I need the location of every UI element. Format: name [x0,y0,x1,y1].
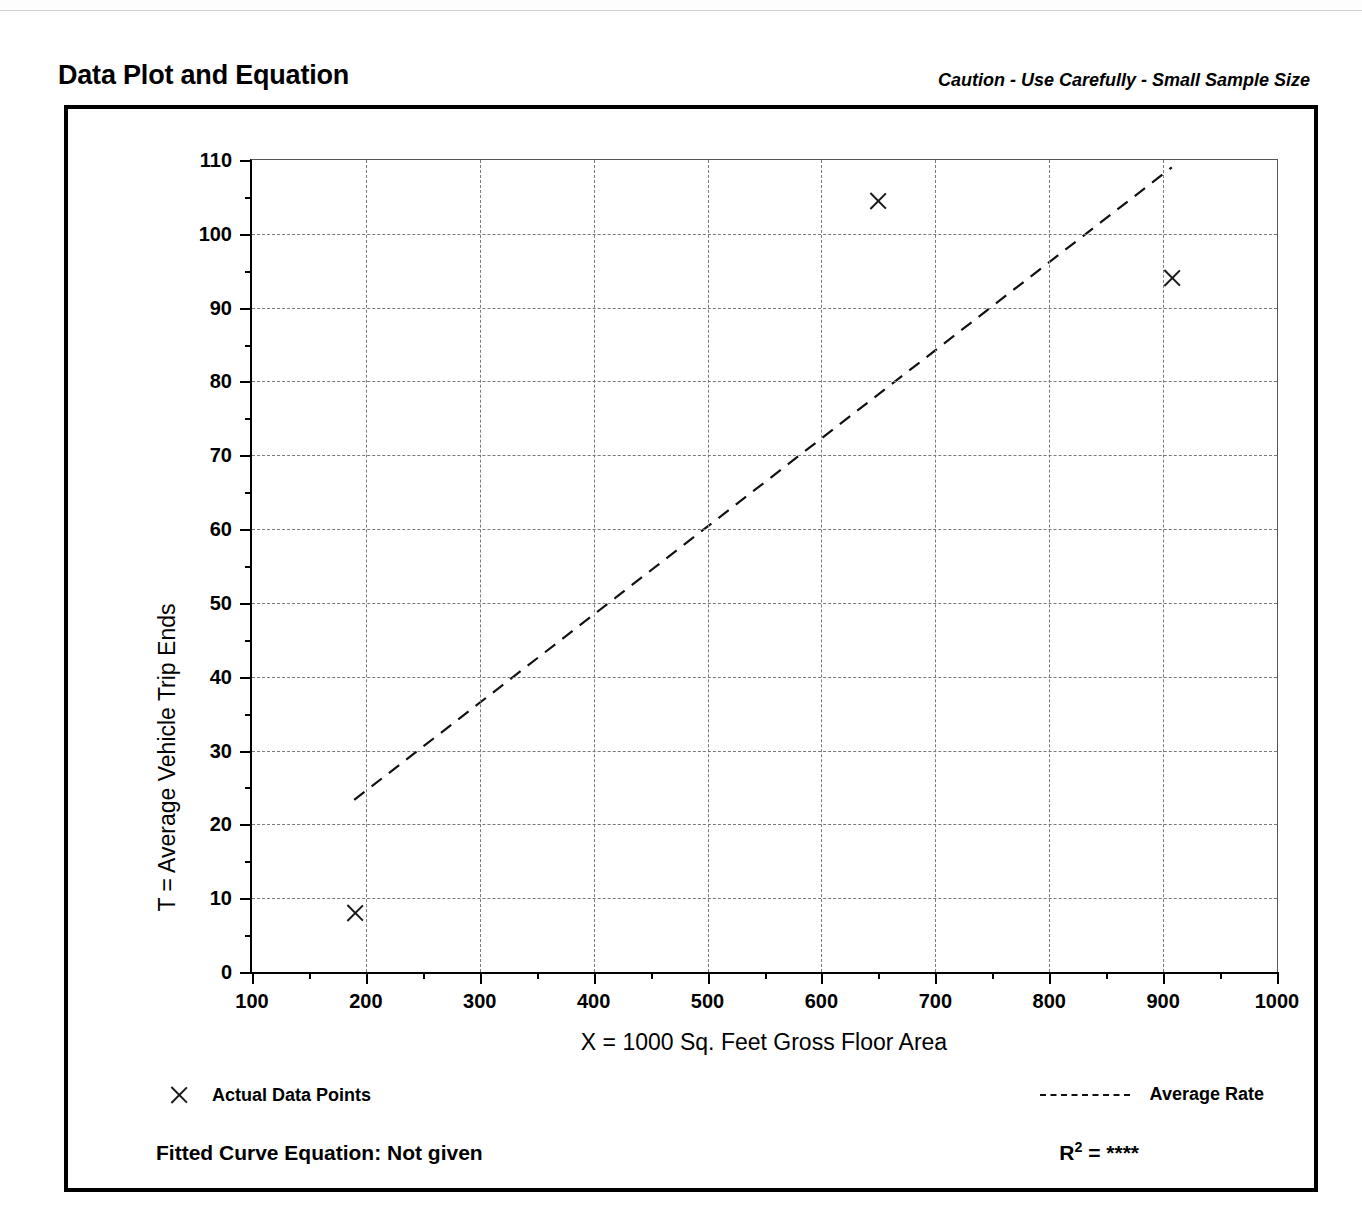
caution-note: Caution - Use Carefully - Small Sample S… [938,70,1310,91]
y-axis-tick [240,824,252,826]
r-squared-value: R2 = **** [1059,1139,1139,1165]
x-axis-tick-label: 400 [577,990,610,1013]
x-axis-tick-label: 900 [1146,990,1179,1013]
x-axis-minor-tick [537,972,539,979]
gridline-horizontal [252,603,1277,604]
plot-area: 0102030405060708090100110100200300400500… [250,159,1278,974]
page-title: Data Plot and Equation [58,60,349,91]
y-axis-tick-label: 100 [199,222,232,245]
y-axis-tick [240,603,252,605]
x-axis-minor-tick [992,972,994,979]
y-axis-minor-tick [245,861,252,863]
legend-points-label: Actual Data Points [212,1085,371,1106]
y-axis-minor-tick [245,271,252,273]
gridline-horizontal [252,308,1277,309]
y-axis-tick [240,160,252,162]
gridline-vertical [935,160,936,972]
y-axis-tick-label: 110 [200,149,232,172]
y-axis-tick-label: 20 [210,813,232,836]
gridline-horizontal [252,529,1277,530]
y-axis-minor-tick [245,492,252,494]
y-axis-tick-label: 40 [210,665,232,688]
y-axis-minor-tick [245,640,252,642]
gridline-horizontal [252,381,1277,382]
gridline-horizontal [252,234,1277,235]
x-axis-tick-label: 300 [463,990,496,1013]
x-axis-tick-label: 200 [349,990,382,1013]
page-top-rule [0,0,1362,11]
gridline-horizontal [252,677,1277,678]
equation-row: Fitted Curve Equation: Not given R2 = **… [156,1139,1264,1165]
gridline-vertical [480,160,481,972]
gridline-vertical [821,160,822,972]
x-axis-tick [594,972,596,984]
y-axis-tick [240,308,252,310]
y-axis-tick-label: 10 [210,887,232,910]
legend-average-rate: Average Rate [1040,1084,1264,1105]
x-axis-tick-label: 600 [805,990,838,1013]
trend-line-svg [252,160,1277,972]
x-axis-tick [1049,972,1051,984]
x-axis-tick-label: 500 [691,990,724,1013]
x-axis-minor-tick [1220,972,1222,979]
gridline-horizontal [252,751,1277,752]
y-axis-tick [240,677,252,679]
x-axis-minor-tick [423,972,425,979]
gridline-horizontal [252,898,1277,899]
x-axis-tick [366,972,368,984]
gridline-vertical [1049,160,1050,972]
chart-frame: T = Average Vehicle Trip Ends 0102030405… [64,105,1318,1192]
y-axis-tick-label: 0 [221,961,232,984]
x-axis-tick-label: 1000 [1255,990,1300,1013]
y-axis-minor-tick [245,566,252,568]
x-axis-tick-label: 800 [1033,990,1066,1013]
x-axis-minor-tick [651,972,653,979]
x-axis-tick [821,972,823,984]
y-axis-tick-label: 60 [210,518,232,541]
x-axis-minor-tick [1106,972,1108,979]
average-rate-trend-line [354,167,1172,799]
dashed-line-icon [1040,1094,1130,1096]
y-axis-tick-label: 50 [210,591,232,614]
x-axis-minor-tick [878,972,880,979]
gridline-horizontal [252,824,1277,825]
x-axis-tick [708,972,710,984]
legend-rate-label: Average Rate [1150,1084,1264,1105]
gridline-vertical [708,160,709,972]
y-axis-minor-tick [245,197,252,199]
y-axis-tick [240,898,252,900]
x-axis-title: X = 1000 Sq. Feet Gross Floor Area [250,1029,1278,1056]
y-axis-tick [240,455,252,457]
y-axis-minor-tick [245,345,252,347]
x-axis-tick [935,972,937,984]
y-axis-tick [240,529,252,531]
x-axis-tick [1163,972,1165,984]
data-point-marker [867,190,889,212]
x-axis-minor-tick [765,972,767,979]
y-axis-tick-label: 70 [210,444,232,467]
y-axis-tick [240,751,252,753]
gridline-vertical [366,160,367,972]
y-axis-tick [240,972,252,974]
y-axis-tick [240,234,252,236]
x-axis-tick [1277,972,1279,984]
legend-actual-data-points: Actual Data Points [168,1084,371,1106]
y-axis-tick-label: 80 [210,370,232,393]
data-point-marker [1161,267,1183,289]
r-squared-number: = **** [1088,1141,1139,1164]
x-axis-tick-label: 100 [235,990,268,1013]
y-axis-minor-tick [245,935,252,937]
y-axis-title: T = Average Vehicle Trip Ends [148,214,188,1214]
data-point-marker [344,902,366,924]
r-squared-exponent: 2 [1074,1139,1082,1155]
fitted-curve-equation: Fitted Curve Equation: Not given [156,1141,483,1165]
x-axis-tick [252,972,254,984]
r-squared-letter: R [1059,1141,1074,1164]
y-axis-minor-tick [245,714,252,716]
x-axis-tick [480,972,482,984]
y-axis-minor-tick [245,787,252,789]
x-marker-icon [168,1084,190,1106]
y-axis-tick-label: 90 [210,296,232,319]
x-axis-minor-tick [309,972,311,979]
gridline-vertical [594,160,595,972]
